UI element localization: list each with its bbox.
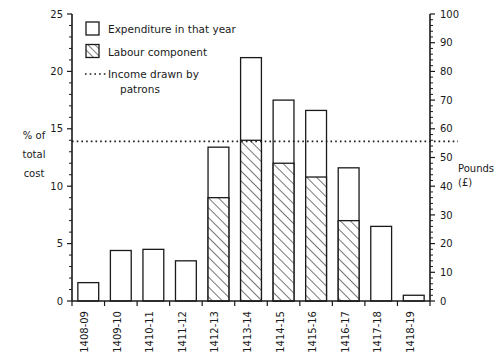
y-ticklabel-right-60: 60 [440,123,453,134]
x-ticklabel-1413-14: 1413-14 [242,311,253,353]
bar-labour-1416-17 [338,221,359,301]
bar-chart: 0510152025 0102030405060708090100 1408-0… [0,0,504,354]
y-ticklabel-left-25: 25 [50,9,63,20]
bar-labour-1415-16 [306,177,327,301]
y-ticklabel-right-80: 80 [440,66,453,77]
legend-swatch-labour [86,45,99,58]
right-axis-title-line-1: (£) [458,177,472,188]
bar-1417-18 [371,226,392,301]
left-axis-title-line-2: cost [24,168,45,179]
y-axis-left: 0510152025 [50,9,72,307]
legend-swatch-expenditure [86,22,99,35]
y-ticklabel-left-15: 15 [50,123,63,134]
bar-1409-10 [110,250,131,301]
x-ticklabel-1415-16: 1415-16 [307,311,318,353]
x-ticklabel-1412-13: 1412-13 [209,311,220,353]
y-ticklabel-right-20: 20 [440,238,453,249]
y-ticklabel-left-5: 5 [57,238,63,249]
left-axis-title-line-0: % of [23,130,46,141]
chart-container: 0510152025 0102030405060708090100 1408-0… [0,0,504,354]
bar-1418-19 [403,295,424,301]
bar-labour-1414-15 [273,163,294,301]
y-ticklabel-right-0: 0 [440,296,446,307]
left-axis-title-line-1: total [23,149,46,160]
y-ticklabel-left-20: 20 [50,66,63,77]
right-axis-title-line-0: Pounds [458,163,494,174]
bar-labour-1412-13 [208,198,229,301]
y-ticklabel-right-40: 40 [440,181,453,192]
y-ticklabel-right-50: 50 [440,152,453,163]
y-ticklabel-left-0: 0 [57,296,63,307]
legend-label-expenditure: Expenditure in that year [108,23,237,35]
bar-1410-11 [143,249,164,301]
x-axis: 1408-091409-101410-111411-121412-131413-… [72,301,430,353]
y-ticklabel-left-10: 10 [50,181,63,192]
y-ticklabel-right-10: 10 [440,267,453,278]
legend-label-labour: Labour component [108,46,207,58]
bar-1411-12 [175,261,196,301]
x-ticklabel-1408-09: 1408-09 [79,311,90,353]
y-ticklabel-right-30: 30 [440,210,453,221]
bar-labour-1413-14 [241,140,262,301]
y-axis-right: 0102030405060708090100 [430,9,459,307]
x-ticklabel-1411-12: 1411-12 [177,311,188,353]
x-ticklabel-1409-10: 1409-10 [112,311,123,353]
legend-label-income: Income drawn by [108,68,199,80]
x-ticklabel-1416-17: 1416-17 [340,311,351,353]
bar-1408-09 [78,283,99,301]
y-ticklabel-right-100: 100 [440,9,459,20]
x-ticklabel-1410-11: 1410-11 [144,311,155,353]
x-ticklabel-1417-18: 1417-18 [372,311,383,353]
x-ticklabel-1414-15: 1414-15 [275,311,286,353]
legend-label-income-2: patrons [120,83,160,95]
y-ticklabel-right-70: 70 [440,95,453,106]
chart-legend: Expenditure in that yearLabour component… [85,22,237,95]
x-ticklabel-1418-19: 1418-19 [405,311,416,353]
y-ticklabel-right-90: 90 [440,37,453,48]
